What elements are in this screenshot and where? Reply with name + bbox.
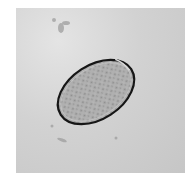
egg-illustration [16, 8, 185, 173]
micrograph [16, 8, 185, 173]
egg [46, 46, 146, 137]
